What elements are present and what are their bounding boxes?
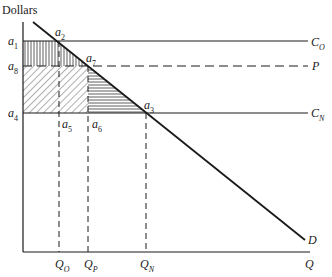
tick-q-price: QP bbox=[84, 257, 98, 274]
label-cost-old: CO bbox=[311, 35, 325, 52]
vertical-hatch-region bbox=[23, 41, 88, 66]
tick-q-new: QN bbox=[140, 257, 155, 274]
point-a2: a2 bbox=[55, 25, 65, 42]
tick-a1: a1 bbox=[8, 34, 18, 51]
x-axis-label: Q bbox=[305, 257, 314, 271]
tick-q-old: QO bbox=[55, 257, 70, 274]
y-axis-label: Dollars bbox=[2, 3, 38, 17]
demand-curve bbox=[33, 22, 305, 240]
label-demand: D bbox=[307, 233, 317, 247]
diagonal-hatch-region bbox=[23, 66, 88, 113]
economics-diagram: Dollars a1 a8 a4 a2 a7 a3 a5 a6 CO P CN … bbox=[0, 0, 332, 277]
point-a5: a5 bbox=[62, 117, 72, 134]
point-a6: a6 bbox=[92, 117, 102, 134]
tick-a4: a4 bbox=[8, 106, 18, 123]
label-cost-new: CN bbox=[311, 106, 325, 123]
label-price: P bbox=[311, 59, 320, 73]
tick-a8: a8 bbox=[8, 59, 18, 76]
